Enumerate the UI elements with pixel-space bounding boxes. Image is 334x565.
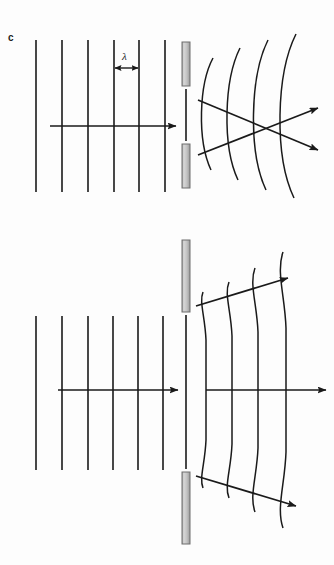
top-panel-narrow-slit: [36, 34, 318, 198]
output-ray-upper-top: [198, 108, 318, 155]
diffraction-figure: c λ: [0, 0, 334, 565]
diffraction-svg-canvas: [0, 0, 334, 565]
output-ray-upper-bottom: [196, 278, 288, 306]
output-ray-lower-bottom: [196, 476, 296, 506]
output-rays-top: [198, 100, 318, 155]
panel-label-c: c: [8, 32, 14, 43]
incident-wavefronts-bottom: [36, 316, 163, 470]
barrier-top-narrow-slit: [182, 42, 190, 188]
output-rays-bottom: [196, 278, 326, 506]
diffracted-wavefronts-top: [201, 34, 296, 198]
barrier-bottom-wide-slit: [182, 240, 190, 544]
wavelength-label: λ: [122, 50, 127, 62]
barrier-block-upper-top: [182, 42, 190, 86]
output-ray-lower-top: [198, 100, 318, 150]
incident-wavefronts-top: [36, 40, 165, 192]
bottom-panel-wide-slit: [36, 240, 326, 544]
barrier-block-lower-bottom: [182, 472, 190, 544]
barrier-block-upper-bottom: [182, 240, 190, 312]
barrier-block-lower-top: [182, 144, 190, 188]
